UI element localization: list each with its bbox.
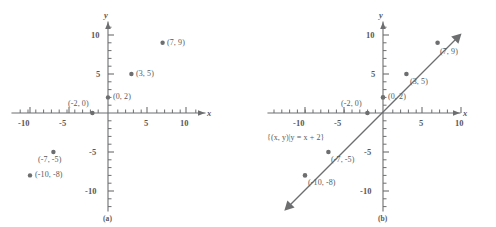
panel-a-caption: (a) bbox=[103, 215, 112, 223]
figure-coordinate-plane-pair: x y -10 -5 5 10 10 5 -5 -10 (7, 9) (3, 5… bbox=[0, 0, 496, 227]
panel-b-point-label-0-2: (0, 2) bbox=[388, 93, 406, 101]
panel-b-xtick--5: -5 bbox=[334, 119, 341, 128]
panel-a-y-axis-label: y bbox=[104, 11, 108, 20]
panel-b-caption: (b) bbox=[378, 215, 387, 223]
panel-a-xtick--5: -5 bbox=[59, 119, 66, 128]
point-neg7-neg5 bbox=[51, 150, 55, 154]
panel-b-xtick-10: 10 bbox=[455, 119, 464, 128]
panel-a-x-axis-label: x bbox=[207, 109, 211, 118]
panel-b-ytick-5: 5 bbox=[371, 70, 375, 79]
panel-b-ytick--10: -10 bbox=[360, 187, 372, 196]
panel-b-point-label-7-9: (7, 9) bbox=[440, 48, 458, 56]
panel-a-ytick--5: -5 bbox=[89, 148, 96, 157]
panel-a-xtick-5: 5 bbox=[144, 119, 148, 128]
panel-b-x-axis-label: x bbox=[463, 109, 467, 118]
panel-b-xtick-5: 5 bbox=[419, 119, 423, 128]
panel-a-ytick-10: 10 bbox=[91, 31, 100, 40]
panel-b-point-label-neg10-neg8: (-10, -8) bbox=[308, 179, 336, 187]
panel-b-point-label-neg7-neg5: (-7, -5) bbox=[331, 156, 354, 164]
point-3-5 bbox=[404, 72, 409, 77]
panel-b-line-graph: x y -10 -5 5 10 10 5 -5 -10 (7, 9) (3, 5… bbox=[248, 0, 496, 227]
panel-b-point-label-3-5: (3, 5) bbox=[410, 78, 428, 86]
panel-a-xtick--10: -10 bbox=[18, 119, 30, 128]
panel-a-point-label-3-5: (3, 5) bbox=[136, 70, 154, 78]
panel-a-ytick--10: -10 bbox=[85, 187, 97, 196]
point-3-5 bbox=[129, 72, 133, 76]
point-7-9 bbox=[160, 41, 164, 45]
panel-b-y-axis-label: y bbox=[379, 11, 383, 20]
panel-b-ytick--5: -5 bbox=[364, 148, 371, 157]
panel-a-point-label-7-9: (7, 9) bbox=[167, 39, 185, 47]
panel-a-point-label-0-2: (0, 2) bbox=[113, 93, 131, 101]
panel-b-point-label-neg2-0: (-2, 0) bbox=[341, 100, 362, 108]
panel-a-point-label-neg10-neg8: (-10, -8) bbox=[35, 171, 63, 179]
point-neg7-neg5 bbox=[326, 150, 331, 155]
panel-b-ytick-10: 10 bbox=[366, 31, 375, 40]
point-neg10-neg8 bbox=[28, 173, 32, 177]
panel-b-xtick--10: -10 bbox=[293, 119, 305, 128]
point-neg10-neg8 bbox=[303, 173, 308, 178]
point-0-2 bbox=[106, 95, 110, 99]
panel-b-equation-label: {(x, y)|y = x + 2} bbox=[267, 134, 324, 142]
panel-a-point-label-neg2-0: (-2, 0) bbox=[68, 100, 89, 108]
panel-a-scatter: x y -10 -5 5 10 10 5 -5 -10 (7, 9) (3, 5… bbox=[0, 0, 248, 227]
point-7-9 bbox=[435, 41, 440, 46]
panel-a-ytick-5: 5 bbox=[96, 70, 100, 79]
point-0-2 bbox=[381, 95, 386, 100]
panel-a-xtick-10: 10 bbox=[180, 119, 189, 128]
point-neg2-0 bbox=[90, 111, 94, 115]
point-neg2-0 bbox=[365, 111, 370, 116]
panel-a-point-label-neg7-neg5: (-7, -5) bbox=[38, 156, 61, 164]
